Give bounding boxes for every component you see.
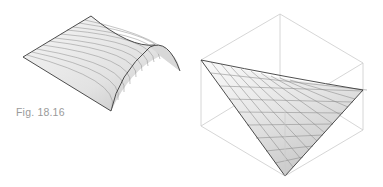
figure-canvas (0, 0, 383, 187)
hypar-cube-drawing (201, 14, 367, 176)
saddle-surface-drawing (23, 16, 180, 111)
figure-caption: Fig. 18.16 (16, 106, 65, 118)
